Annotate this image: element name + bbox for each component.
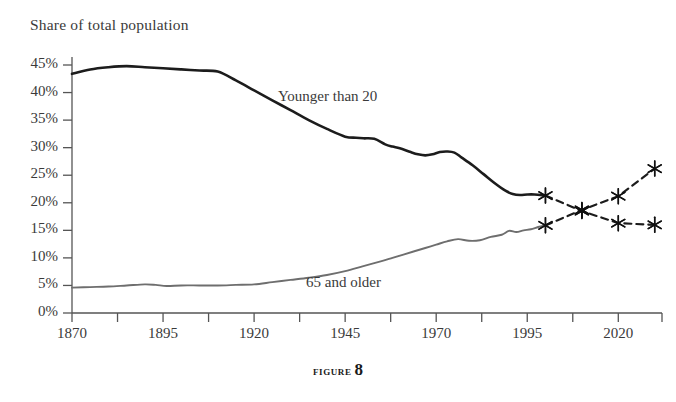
y-tick-label: 10% [12, 248, 58, 265]
asterisk-marker [612, 189, 625, 204]
y-tick-label: 40% [12, 83, 58, 100]
asterisk-marker [575, 202, 588, 217]
x-axis-ticks [72, 313, 662, 322]
figure-8: Share of total population 0%5%10%15%20%2… [0, 0, 676, 402]
y-tick-label: 15% [12, 220, 58, 237]
y-tick-label: 45% [12, 55, 58, 72]
x-tick-label: 1970 [401, 325, 471, 342]
x-tick-label: 1870 [37, 325, 107, 342]
y-tick-label: 20% [12, 193, 58, 210]
asterisk-marker [539, 218, 552, 233]
x-tick-label: 1945 [310, 325, 380, 342]
y-tick-label: 0% [12, 303, 58, 320]
y-tick-label: 35% [12, 110, 58, 127]
series-label-younger-than-20: Younger than 20 [278, 88, 377, 105]
x-tick-label: 2020 [583, 325, 653, 342]
y-tick-label: 25% [12, 165, 58, 182]
asterisk-marker [648, 161, 661, 176]
y-axis-ticks [63, 65, 72, 313]
x-tick-label: 1920 [219, 325, 289, 342]
series-label-65-and-older: 65 and older [306, 274, 381, 291]
asterisk-marker [612, 216, 625, 231]
series-path-0 [72, 66, 545, 196]
y-tick-label: 5% [12, 275, 58, 292]
series-path-3 [545, 169, 654, 226]
figure-caption-number: 8 [355, 360, 364, 379]
series-path-2 [545, 196, 654, 225]
chart-marker-group [539, 161, 661, 233]
figure-caption: Figure8 [0, 360, 676, 380]
figure-caption-word: Figure [313, 363, 352, 378]
x-tick-label: 1995 [492, 325, 562, 342]
y-tick-label: 30% [12, 138, 58, 155]
x-tick-label: 1895 [128, 325, 198, 342]
